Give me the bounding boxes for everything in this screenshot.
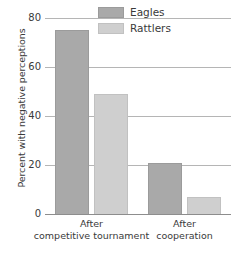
x-axis-labels: Aftercompetitive tournamentAftercooperat…: [45, 218, 231, 252]
eagles-swatch: [98, 7, 124, 18]
y-tick-label-60: 60: [1, 62, 41, 72]
y-tick-label-80: 80: [1, 13, 41, 23]
bar-rattlers-group-2: [187, 197, 221, 214]
legend-label-rattlers: Rattlers: [130, 23, 171, 34]
legend: EaglesRattlers: [98, 5, 190, 37]
legend-label-eagles: Eagles: [130, 7, 165, 18]
plot-area: [45, 18, 231, 214]
bar-eagles-group-1: [55, 30, 89, 214]
x-category-line: cooperation: [118, 230, 233, 242]
legend-item-eagles: Eagles: [98, 5, 190, 19]
bar-rattlers-group-1: [94, 94, 128, 214]
legend-item-rattlers: Rattlers: [98, 21, 190, 35]
x-category-line: After: [118, 218, 233, 230]
gridline-0: [45, 214, 231, 215]
y-tick-label-40: 40: [1, 111, 41, 121]
bar-eagles-group-2: [148, 163, 182, 214]
bar-chart: Percent with negative perceptions 020406…: [0, 0, 233, 255]
rattlers-swatch: [98, 23, 124, 34]
x-category-label-2: Aftercooperation: [118, 218, 233, 242]
y-tick-label-20: 20: [1, 160, 41, 170]
